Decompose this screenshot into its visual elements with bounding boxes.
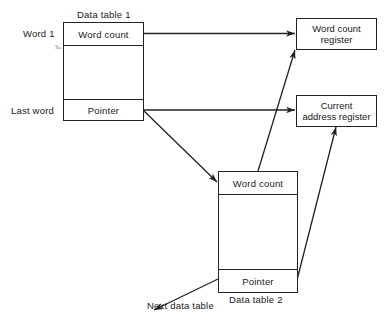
row-label-last-word: Last word <box>11 105 54 116</box>
data-table-1-title: Data table 1 <box>77 9 131 20</box>
current-address-register-line2: address register <box>302 111 370 122</box>
data-table-1-word-count: Word count <box>64 23 143 46</box>
arrow-t2-pointer-to-ca-register <box>297 127 336 280</box>
next-data-table-label: Next data table <box>147 300 214 311</box>
data-table-1: Word count Pointer <box>63 22 144 121</box>
stray-mark: ‰ <box>55 44 61 50</box>
data-table-2-word-count: Word count <box>219 172 297 195</box>
arrow-t1-pointer-to-t2-wordcount <box>144 111 217 182</box>
data-table-2-divider-top <box>219 194 297 195</box>
data-table-2-title: Data table 2 <box>229 294 283 305</box>
word-count-register-line2: register <box>321 34 353 45</box>
word-count-register-line1: Word count <box>312 23 360 34</box>
row-label-word-1: Word 1 <box>23 28 55 39</box>
data-table-2-pointer: Pointer <box>219 270 297 292</box>
current-address-register-line1: Current <box>321 100 353 111</box>
current-address-register: Current address register <box>296 95 377 127</box>
data-table-2: Word count Pointer <box>218 171 298 293</box>
data-table-1-pointer: Pointer <box>64 100 143 121</box>
word-count-register: Word count register <box>296 18 377 50</box>
data-table-1-divider-top <box>64 45 143 46</box>
